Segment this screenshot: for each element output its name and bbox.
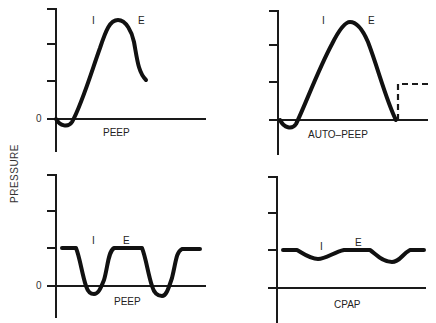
panel-caption: PEEP <box>103 127 130 138</box>
panel-bottom-left: 0 I E PEEP <box>36 174 206 318</box>
zero-label: 0 <box>36 113 42 124</box>
pressure-curve <box>62 248 200 296</box>
pressure-curve <box>283 250 424 262</box>
expiration-label: E <box>368 15 375 26</box>
expiration-label: E <box>355 237 362 248</box>
panel-top-left: 0 I E PEEP <box>36 8 206 152</box>
y-axis-label: PRESSURE <box>9 144 20 203</box>
panel-bottom-right: I E CPAP <box>268 176 426 323</box>
pressure-waveform-diagram: PRESSURE 0 I E PEEP I E AUTO–PEEP 0 I <box>0 0 436 323</box>
panel-caption: PEEP <box>114 296 141 307</box>
pressure-curve <box>280 22 396 127</box>
expiration-label: E <box>123 235 130 246</box>
panel-caption: AUTO–PEEP <box>308 129 368 140</box>
inspiration-label: I <box>92 15 95 26</box>
zero-label: 0 <box>36 280 42 291</box>
inspiration-label: I <box>92 235 95 246</box>
inspiration-label: I <box>322 15 325 26</box>
auto-peep-dashed-line <box>398 84 428 120</box>
expiration-label: E <box>138 15 145 26</box>
panel-top-right: I E AUTO–PEEP <box>269 10 428 155</box>
panel-caption: CPAP <box>334 299 361 310</box>
pressure-curve <box>56 20 146 126</box>
inspiration-label: I <box>320 241 323 252</box>
